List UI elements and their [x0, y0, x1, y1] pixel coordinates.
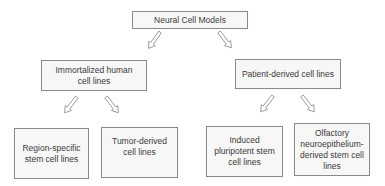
arrow-patient-to-olfactory-icon: [299, 94, 318, 115]
arrow-root-to-patient-icon: [216, 30, 235, 51]
root-node-label: Neural Cell Models: [151, 15, 229, 26]
tumor-derived-node-label: Tumor-derived cell lines: [106, 136, 174, 158]
arrow-root-to-immortalized-icon: [145, 30, 163, 51]
immortalized-node-label: Immortalized human cell lines: [51, 65, 137, 87]
immortalized-node: Immortalized human cell lines: [41, 60, 147, 91]
patient-derived-node-label: Patient-derived cell lines: [239, 69, 337, 80]
olfactory-node-label: Olfactory neuroepithelium-derived stem c…: [296, 128, 368, 172]
arrow-immortalized-to-region-icon: [62, 95, 81, 116]
arrow-patient-to-induced-icon: [258, 94, 277, 115]
induced-pluripotent-node-label: Induced pluripotent stem cell lines: [211, 135, 279, 168]
arrow-immortalized-to-tumor-icon: [103, 95, 122, 116]
patient-derived-node: Patient-derived cell lines: [235, 59, 341, 89]
induced-pluripotent-node: Induced pluripotent stem cell lines: [206, 126, 283, 177]
tumor-derived-node: Tumor-derived cell lines: [101, 127, 178, 178]
region-specific-node: Region-specific stem cell lines: [14, 128, 89, 179]
olfactory-node: Olfactory neuroepithelium-derived stem c…: [294, 123, 370, 176]
region-specific-node-label: Region-specific stem cell lines: [18, 143, 86, 165]
root-node: Neural Cell Models: [132, 11, 248, 29]
